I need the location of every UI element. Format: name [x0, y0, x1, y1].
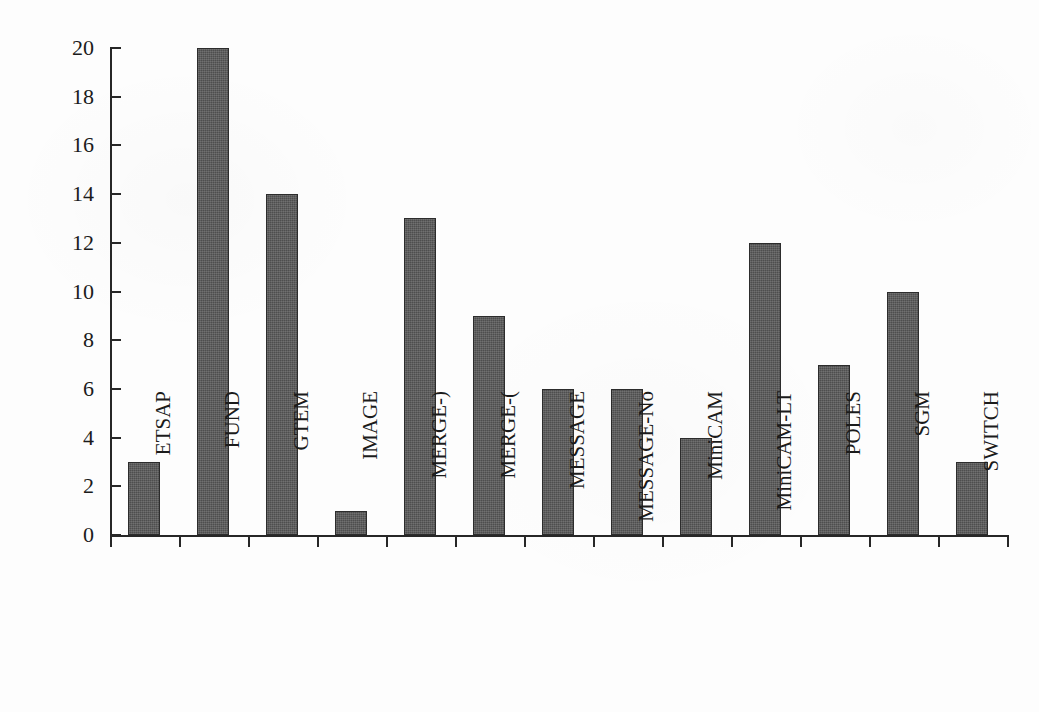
y-axis-tick-mark	[110, 437, 121, 439]
y-axis-tick-label: 16	[72, 130, 94, 160]
x-axis-tick-mark	[317, 535, 319, 547]
y-axis-tick-label: 18	[72, 82, 94, 112]
x-axis-tick-label: ETSAP	[153, 391, 173, 551]
y-axis-tick-mark	[110, 47, 121, 49]
x-axis-tick-label: SWITCH	[981, 391, 1001, 551]
y-axis-tick-label: 0	[83, 520, 94, 550]
y-axis-tick-label: 14	[72, 179, 94, 209]
x-axis-tick-label: MESSAGE-No	[636, 391, 656, 551]
x-axis-tick-mark	[1007, 535, 1009, 547]
x-axis-tick-label: POLES	[843, 391, 863, 551]
x-axis-tick-label: IMAGE	[360, 391, 380, 551]
y-axis-tick-mark	[110, 144, 121, 146]
y-axis-tick-label: 8	[83, 325, 94, 355]
plot-area: 02468101214161820	[110, 48, 1008, 535]
x-axis-tick-label: SGM	[912, 391, 932, 551]
y-axis-tick-label: 6	[83, 374, 94, 404]
y-axis-tick-label: 2	[83, 471, 94, 501]
y-axis-tick-mark	[110, 485, 121, 487]
x-axis-tick-label: MERGE-(	[498, 391, 518, 551]
x-axis-tick-mark	[869, 535, 871, 547]
x-axis-tick-label: FUND	[222, 391, 242, 551]
x-axis-tick-mark	[455, 535, 457, 547]
y-axis-tick-mark	[110, 291, 121, 293]
y-axis-tick-label: 12	[72, 228, 94, 258]
y-axis-tick-mark	[110, 242, 121, 244]
x-axis-tick-label: MiniCAM	[705, 391, 725, 551]
x-axis-tick-label: MiniCAM-LT	[774, 391, 794, 551]
y-axis-tick-label: 20	[72, 33, 94, 63]
y-axis-tick-label: 4	[83, 423, 94, 453]
y-axis-tick-mark	[110, 339, 121, 341]
x-axis-line	[110, 535, 1008, 537]
x-axis-tick-mark	[938, 535, 940, 547]
x-axis-tick-mark	[800, 535, 802, 547]
x-axis-tick-label: MERGE-)	[429, 391, 449, 551]
x-axis-tick-mark	[662, 535, 664, 547]
x-axis-tick-label: GTEM	[291, 391, 311, 551]
y-axis-title: Carbon tax ($/tC) in 2015	[14, 0, 48, 82]
x-axis-tick-mark	[593, 535, 595, 547]
y-axis-tick-mark	[110, 193, 121, 195]
x-axis-tick-mark	[524, 535, 526, 547]
bar-chart-figure: Carbon tax ($/tC) in 2015 02468101214161…	[0, 0, 1039, 712]
y-axis-tick-label: 10	[72, 277, 94, 307]
x-axis-tick-mark	[179, 535, 181, 547]
y-axis-tick-mark	[110, 96, 121, 98]
y-axis-tick-mark	[110, 388, 121, 390]
x-axis-tick-mark	[248, 535, 250, 547]
x-axis-tick-mark	[110, 535, 112, 547]
x-axis-tick-mark	[386, 535, 388, 547]
x-axis-tick-label: MESSAGE	[567, 391, 587, 551]
x-axis-tick-mark	[731, 535, 733, 547]
